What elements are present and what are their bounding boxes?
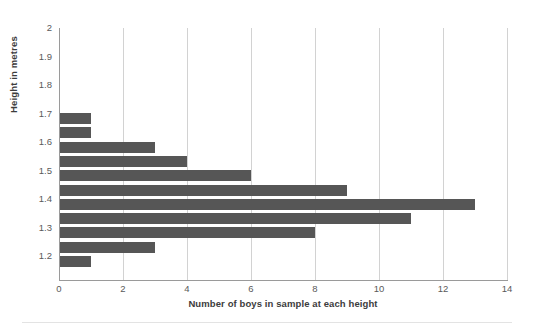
y-tick-label: 1.4 [20, 193, 52, 204]
x-tick-label: 0 [39, 283, 79, 294]
bar-chart: Height in metres 21.91.81.71.61.51.41.31… [0, 0, 535, 326]
y-tick-label: 1.3 [20, 222, 52, 233]
y-tick-label: 2 [20, 22, 52, 33]
bar [60, 213, 411, 224]
bar [60, 156, 187, 167]
x-tick-label: 12 [423, 283, 463, 294]
bar [60, 113, 91, 124]
x-tick-label: 14 [487, 283, 527, 294]
x-tick-label: 10 [359, 283, 399, 294]
bar [60, 185, 347, 196]
x-axis-title: Number of boys in sample at each height [59, 298, 507, 309]
plot-area [59, 28, 507, 280]
x-axis-line [59, 280, 508, 281]
bar [60, 199, 475, 210]
gridline-x-4 [187, 28, 188, 280]
gridline-x-8 [315, 28, 316, 280]
y-tick-label: 1.2 [20, 250, 52, 261]
bar [60, 256, 91, 267]
bar [60, 127, 91, 138]
x-tick-label: 8 [295, 283, 335, 294]
bar [60, 170, 251, 181]
x-tick-label: 4 [167, 283, 207, 294]
gridline-x-12 [443, 28, 444, 280]
gridline-x-14 [507, 28, 508, 280]
gridline-x-10 [379, 28, 380, 280]
x-tick-label: 6 [231, 283, 271, 294]
y-tick-label: 1.8 [20, 79, 52, 90]
footer-divider [22, 322, 512, 323]
y-tick-label: 1.5 [20, 165, 52, 176]
x-tick-label: 2 [103, 283, 143, 294]
gridline-x-6 [251, 28, 252, 280]
bar [60, 242, 155, 253]
bar [60, 142, 155, 153]
y-tick-label: 1.9 [20, 51, 52, 62]
bar [60, 227, 315, 238]
y-tick-label: 1.6 [20, 136, 52, 147]
y-tick-label: 1.7 [20, 108, 52, 119]
